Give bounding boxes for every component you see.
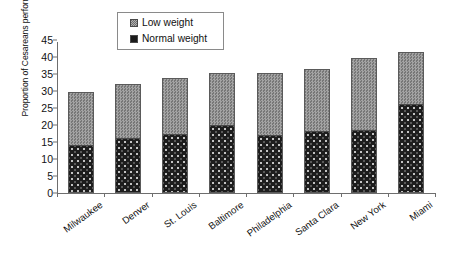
bar-segment-normal-weight xyxy=(116,138,140,192)
x-axis-label-miami: Miami xyxy=(408,199,435,223)
y-axis-tick-mark xyxy=(53,91,57,92)
y-axis-tick-mark xyxy=(53,176,57,177)
y-axis-tick-mark xyxy=(53,108,57,109)
x-axis-label-milwaukee: Milwaukee xyxy=(61,199,104,235)
bar-segment-low-weight xyxy=(210,74,234,126)
bar-segment-low-weight xyxy=(116,85,140,139)
x-axis-label-st-louis: St. Louis xyxy=(162,199,199,230)
bar-segment-normal-weight xyxy=(210,125,234,192)
legend-swatch-low-weight-icon xyxy=(130,19,138,27)
legend-entry-low-weight: Low weight xyxy=(130,17,193,28)
x-axis-label-santa-clara: Santa Clara xyxy=(293,199,340,238)
legend-label-low-weight: Low weight xyxy=(142,17,193,28)
bar-segment-normal-weight xyxy=(399,104,423,192)
bar-segment-normal-weight xyxy=(305,131,329,192)
bar-segment-normal-weight xyxy=(352,130,376,192)
bar-segment-low-weight xyxy=(163,79,187,136)
y-axis-tick-mark xyxy=(53,125,57,126)
bar-segment-normal-weight xyxy=(69,145,93,192)
bar-philadelphia[interactable] xyxy=(257,73,283,193)
y-axis-title-container: Proportion of Cesareans performed (%) xyxy=(8,18,24,198)
bar-segment-normal-weight xyxy=(163,134,187,192)
bar-segment-low-weight xyxy=(305,70,329,133)
y-axis-title: Proportion of Cesareans performed (%) xyxy=(20,0,30,133)
y-axis-tick-mark xyxy=(53,74,57,75)
x-axis-tick-mark xyxy=(246,193,247,197)
legend-entry-normal-weight: Normal weight xyxy=(130,33,207,44)
bar-miami[interactable] xyxy=(398,52,424,193)
legend-swatch-normal-weight-icon xyxy=(130,35,138,43)
bar-segment-low-weight xyxy=(69,93,93,147)
bar-segment-normal-weight xyxy=(258,135,282,192)
x-axis-label-new-york: New York xyxy=(348,199,387,232)
bar-santa-clara[interactable] xyxy=(304,69,330,193)
x-axis-tick-mark xyxy=(388,193,389,197)
x-axis-tick-mark xyxy=(104,193,105,197)
y-axis-tick-mark xyxy=(53,142,57,143)
x-axis-tick-mark xyxy=(199,193,200,197)
plot-area: 051015202530354045 xyxy=(57,40,435,193)
x-axis-label-baltimore: Baltimore xyxy=(207,199,246,232)
y-axis-tick-mark xyxy=(53,40,57,41)
x-axis-label-denver: Denver xyxy=(120,199,151,226)
x-axis-label-philadelphia: Philadelphia xyxy=(244,199,293,239)
bar-milwaukee[interactable] xyxy=(68,92,94,193)
y-axis-tick-mark xyxy=(53,159,57,160)
bar-segment-low-weight xyxy=(399,53,423,106)
bar-st-louis[interactable] xyxy=(162,78,188,193)
bar-new-york[interactable] xyxy=(351,58,377,193)
bar-denver[interactable] xyxy=(115,84,141,193)
bar-segment-low-weight xyxy=(258,74,282,137)
x-axis-tick-mark xyxy=(57,193,58,197)
y-axis-tick-mark xyxy=(53,57,57,58)
bar-segment-low-weight xyxy=(352,59,376,132)
bar-chart: Proportion of Cesareans performed (%) 05… xyxy=(0,0,452,264)
x-axis-tick-mark xyxy=(341,193,342,197)
legend-label-normal-weight: Normal weight xyxy=(142,33,207,44)
x-axis-tick-mark xyxy=(152,193,153,197)
x-axis-tick-mark xyxy=(435,193,436,197)
bar-baltimore[interactable] xyxy=(209,73,235,193)
x-axis-tick-mark xyxy=(293,193,294,197)
chart-legend: Low weight Normal weight xyxy=(117,12,224,50)
